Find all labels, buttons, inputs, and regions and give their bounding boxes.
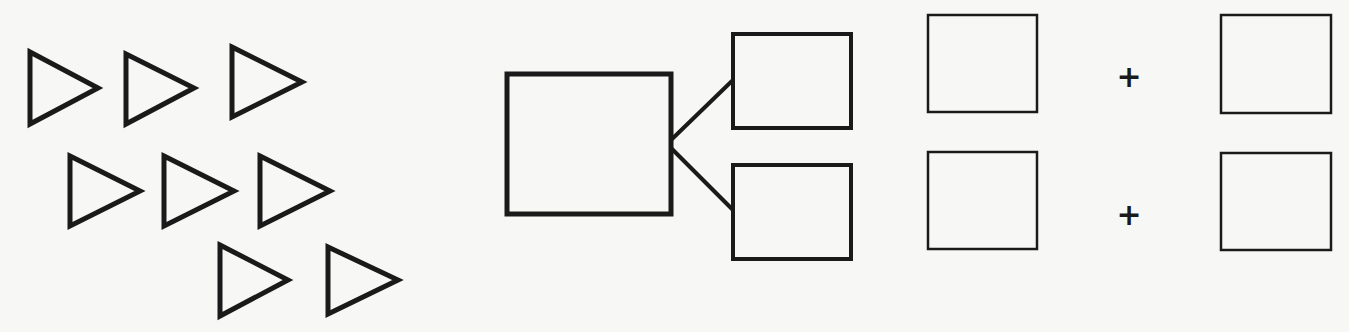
triangle-icon: [30, 52, 98, 124]
triangle-icon: [328, 247, 398, 314]
part-box-bottom[interactable]: [733, 165, 851, 259]
part-box-top[interactable]: [733, 34, 851, 128]
equation-2-right-box[interactable]: [1221, 153, 1331, 250]
triangle-icon: [220, 245, 288, 316]
triangle-icon: [232, 47, 302, 117]
equation-1-left-box[interactable]: [928, 15, 1037, 112]
number-bond: [507, 34, 851, 259]
triangle-icon: [126, 54, 194, 124]
plus-sign-icon: +: [1114, 62, 1144, 92]
triangle-icon: [70, 156, 140, 226]
bond-connector-bottom: [671, 148, 733, 210]
whole-box[interactable]: [507, 74, 671, 214]
triangle-icon: [260, 156, 330, 226]
bond-connector-top: [671, 80, 733, 140]
plus-sign-icon: +: [1114, 200, 1144, 230]
equation-1-right-box[interactable]: [1221, 15, 1331, 113]
triangle-icon: [164, 156, 234, 226]
triangle-group: [30, 47, 398, 316]
equation-2-left-box[interactable]: [928, 152, 1037, 249]
worksheet-canvas: [0, 0, 1349, 332]
